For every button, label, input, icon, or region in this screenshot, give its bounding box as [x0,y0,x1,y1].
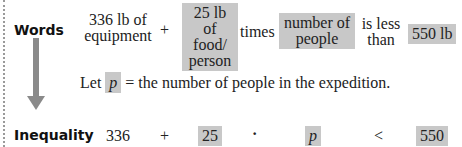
less-line2: than [358,32,404,48]
people-line1: number of [283,15,351,31]
limit-box: 550 lb [408,24,456,44]
down-arrow-icon-shaft [33,38,39,98]
less-line1: is less [358,16,404,32]
inequality-label: Inequality [14,127,94,143]
equipment-phrase: 336 lb of equipment [82,12,154,44]
number-of-people-box: number of people [279,13,355,49]
let-word: Let [80,74,101,91]
plus-sign: + [160,22,169,38]
inequality-less-than: < [374,128,383,144]
equipment-line2: equipment [82,28,154,44]
left-dotted-border [3,0,5,147]
equipment-line1: 336 lb of [82,12,154,28]
food-line2: food/ [186,37,234,53]
inequality-plus: + [160,128,169,144]
down-arrow-icon [27,96,45,110]
variable-p-box: p [105,72,121,93]
is-less-than-phrase: is less than [358,16,404,48]
inequality-term-336: 336 [106,128,130,144]
people-line2: people [283,31,351,47]
inequality-limit-550: 550 [416,126,448,146]
times-word: times [240,24,275,40]
words-label: Words [14,22,64,38]
food-line3: person [186,53,234,69]
inequality-variable-p: p [305,126,321,146]
food-line1: 25 lb of [186,5,234,37]
inequality-dot: · [252,126,257,142]
variable-definition: Let p = the number of people in the expe… [80,75,390,91]
inequality-term-25: 25 [198,126,222,146]
food-per-person-box: 25 lb of food/ person [182,3,238,71]
definition-text: = the number of people in the expedition… [125,74,390,91]
